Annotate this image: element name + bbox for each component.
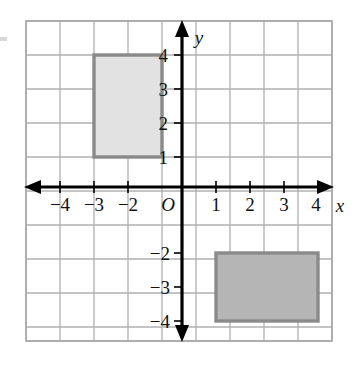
y-axis-top-arrowhead xyxy=(175,20,189,37)
y-label-neg-2: −2 xyxy=(150,243,170,264)
y-label-neg-4: −4 xyxy=(150,311,171,332)
y-label-neg-3: −3 xyxy=(150,277,170,298)
upper-left-rectangle xyxy=(94,55,162,157)
y-axis-label: y xyxy=(193,27,204,48)
lower-right-rectangle xyxy=(216,253,318,321)
coordinate-plane-svg: 4 3 2 1 −2 −3 −4 −4 −3 −2 O 1 2 3 4 x y xyxy=(0,0,355,366)
x-axis-label: x xyxy=(335,195,345,216)
x-label-neg-4: −4 xyxy=(50,194,71,215)
x-label-3: 3 xyxy=(279,194,289,215)
y-label-3: 3 xyxy=(159,79,169,100)
x-label-1: 1 xyxy=(211,194,221,215)
coordinate-plane-figure: 4 3 2 1 −2 −3 −4 −4 −3 −2 O 1 2 3 4 x y xyxy=(0,0,355,366)
y-label-4: 4 xyxy=(159,45,169,66)
y-axis-bottom-arrowhead xyxy=(175,325,189,342)
x-label-4: 4 xyxy=(311,194,321,215)
origin-label: O xyxy=(161,194,175,215)
y-label-2: 2 xyxy=(159,113,169,134)
x-label-neg-3: −3 xyxy=(84,194,104,215)
y-label-1: 1 xyxy=(159,147,169,168)
x-label-2: 2 xyxy=(245,194,255,215)
x-label-neg-2: −2 xyxy=(118,194,138,215)
page-edge-artifact xyxy=(0,37,7,41)
